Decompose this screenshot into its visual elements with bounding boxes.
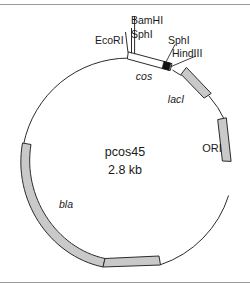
plasmid-size: 2.8 kb (108, 163, 142, 177)
backbone-arc-right-middle (209, 96, 225, 121)
label-cos: cos (136, 70, 153, 82)
backbone-arc-lower-right (161, 196, 229, 265)
label-bla: bla (59, 198, 73, 210)
label-ecori: EcoRI (95, 34, 124, 46)
plasmid-circle-diagram: EcoRI BamHI SphI SphI HindIII cos lacI O… (0, 0, 250, 286)
label-hindiii: HindIII (172, 47, 202, 59)
label-bamhi: BamHI (131, 14, 163, 26)
label-sphi-right: SphI (168, 34, 190, 46)
feature-bla-arc-tip (103, 256, 161, 267)
backbone-arc-upper-left (24, 58, 129, 144)
label-sphi-left: SphI (131, 28, 153, 40)
label-ori: ORI (202, 142, 222, 154)
plasmid-map-figure: EcoRI BamHI SphI SphI HindIII cos lacI O… (0, 0, 250, 286)
cos-marker-black-segment (162, 61, 171, 70)
plasmid-name: pcos45 (105, 145, 145, 159)
feature-laci-arc (181, 67, 211, 98)
tick-ecori (126, 32, 129, 53)
feature-ori-arc (218, 118, 231, 162)
label-laci: lacI (168, 93, 184, 105)
backbone-arc-cos-to-laci (173, 70, 182, 76)
